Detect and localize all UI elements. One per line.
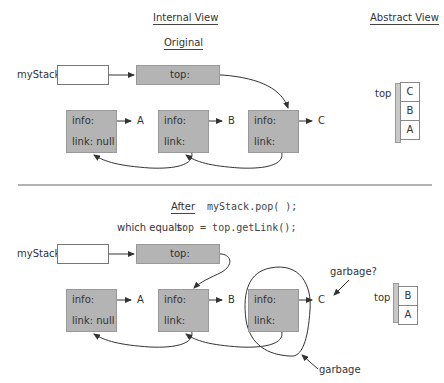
- after-value-b: B: [228, 294, 235, 305]
- node-link-label: link:: [164, 136, 185, 147]
- top-label: top:: [170, 69, 190, 80]
- node-info-label: info:: [254, 115, 276, 126]
- node-a: info: link: null: [66, 110, 117, 153]
- garbage-arrow: [302, 355, 318, 369]
- after-mystack-ref-box: [57, 244, 109, 264]
- mystack-ref-box: [57, 65, 109, 85]
- after-node-c-garbage: info: link:: [248, 289, 299, 332]
- node-c: info: link:: [248, 110, 299, 153]
- node-link-label: link: null: [72, 136, 114, 147]
- value-b: B: [228, 115, 235, 126]
- node-info-label: info:: [72, 115, 94, 126]
- garbage-question-arrow: [334, 280, 349, 295]
- abstract-view-heading: Abstract View: [370, 12, 439, 25]
- value-c: C: [318, 115, 325, 126]
- node-link-label: link:: [254, 136, 275, 147]
- after-stack-cell-b: B: [398, 286, 418, 306]
- after-value-a: A: [137, 294, 144, 305]
- after-abstract-top-label: top: [374, 292, 390, 303]
- internal-view-heading: Internal View: [153, 12, 218, 25]
- node-b: info: link:: [158, 110, 209, 153]
- abstract-top-label: top: [375, 88, 391, 99]
- after-value-c: C: [318, 294, 325, 305]
- top-box: top:: [136, 65, 220, 85]
- node-info-label: info:: [164, 115, 186, 126]
- node-info-label: info:: [164, 294, 186, 305]
- node-link-label: link:: [164, 315, 185, 326]
- pop-call-code: myStack.pop( );: [207, 201, 297, 212]
- value-a: A: [137, 115, 144, 126]
- node-link-label: link: null: [72, 315, 114, 326]
- after-top-label: top:: [170, 248, 190, 259]
- after-node-b: info: link:: [158, 289, 209, 332]
- after-stack-cell-a: A: [398, 305, 418, 325]
- garbage-label: garbage: [319, 364, 361, 375]
- stack-cell-c: C: [400, 82, 420, 102]
- node-info-label: info:: [72, 294, 94, 305]
- original-heading: Original: [164, 37, 203, 50]
- equals-code: top = top.getLink();: [176, 222, 296, 233]
- garbage-question-label: garbage?: [330, 266, 377, 277]
- node-link-label: link:: [254, 315, 275, 326]
- node-info-label: info:: [254, 294, 276, 305]
- after-heading: After: [171, 201, 195, 214]
- stack-cell-a: A: [400, 120, 420, 140]
- stack-cell-b: B: [400, 101, 420, 121]
- after-top-box: top:: [136, 244, 220, 264]
- after-node-a: info: link: null: [66, 289, 117, 332]
